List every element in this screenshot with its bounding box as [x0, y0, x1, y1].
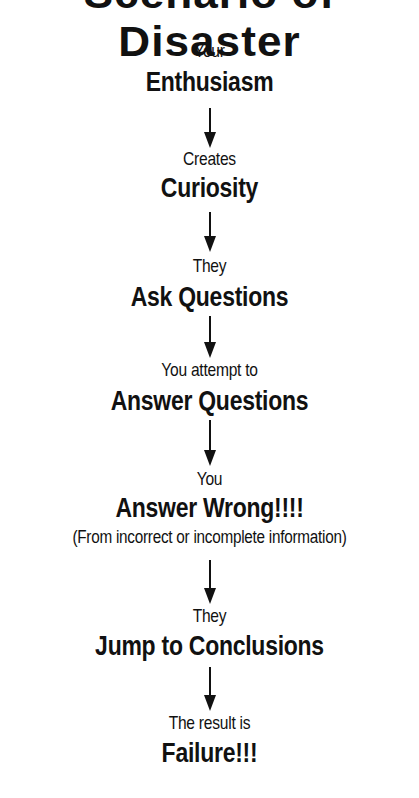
step-2-main: Curiosity	[38, 172, 382, 204]
down-arrow-icon	[204, 108, 216, 148]
step-5-lead: You	[38, 468, 382, 490]
step-6-main: Jump to Conclusions	[38, 630, 382, 662]
step-6-lead: They	[38, 605, 382, 627]
step-7-lead: The result is	[38, 712, 382, 734]
down-arrow-icon	[204, 667, 216, 711]
down-arrow-icon	[204, 560, 216, 604]
step-4-main: Answer Questions	[38, 385, 382, 417]
step-1-main: Enthusiasm	[38, 66, 382, 98]
down-arrow-icon	[204, 212, 216, 252]
step-3-lead: They	[38, 255, 382, 277]
step-1-lead: Your	[38, 40, 382, 62]
step-5-note: (From incorrect or incomplete informatio…	[31, 527, 387, 548]
step-3-main: Ask Questions	[38, 281, 382, 313]
step-4-lead: You attempt to	[38, 359, 382, 381]
down-arrow-icon	[204, 420, 216, 466]
step-7-main: Failure!!!	[38, 737, 382, 769]
step-5-main: Answer Wrong!!!!	[38, 492, 382, 524]
down-arrow-icon	[204, 316, 216, 358]
step-2-lead: Creates	[38, 148, 382, 170]
